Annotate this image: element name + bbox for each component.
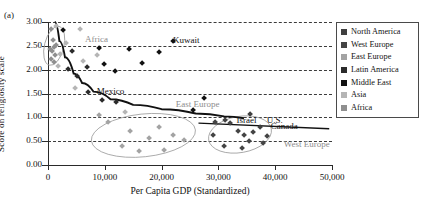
legend-swatch-icon (341, 42, 347, 48)
annotation-mexico: Mexico (97, 86, 125, 96)
annotation-kuwait: Kuwait (173, 35, 200, 45)
x-axis-title: Per Capita GDP (Standardized) (48, 186, 332, 196)
legend-label: West Europe (351, 41, 393, 49)
legend-swatch-icon (341, 80, 347, 86)
x-axis-line (48, 165, 332, 166)
x-tick (332, 165, 333, 170)
legend: North AmericaWest EuropeEast EuropeLatin… (336, 22, 419, 118)
figure-panel: (a) Score on religiosity scale 0.000.501… (0, 0, 423, 206)
y-tick-label: 0.00 (2, 159, 42, 169)
legend-item-west-europe: West Europe (341, 39, 415, 52)
legend-label: Asia (351, 91, 366, 99)
x-tick-label: 50,000 (302, 172, 362, 182)
x-tick-label: 30,000 (188, 172, 248, 182)
legend-item-north-america: North America (341, 26, 415, 39)
y-tick-label: 0.50 (2, 135, 42, 145)
annotation-easteurope: East Europe (176, 99, 220, 109)
y-tick-label: 1.00 (2, 111, 42, 121)
x-tick-label: 10,000 (75, 172, 135, 182)
annotation-westeurope: West Europe (284, 139, 330, 149)
legend-swatch-icon (341, 105, 347, 111)
legend-swatch-icon (341, 29, 347, 35)
legend-label: Latin America (351, 66, 399, 74)
annotation-israel: Israel (237, 115, 257, 125)
legend-swatch-icon (341, 92, 347, 98)
right-linear-trend (199, 123, 330, 129)
legend-swatch-icon (341, 54, 347, 60)
legend-item-middle-east: Middle East (341, 76, 415, 89)
legend-label: Africa (351, 104, 372, 112)
annotation-africa: Africa (85, 34, 108, 44)
legend-item-east-europe: East Europe (341, 51, 415, 64)
y-tick-label: 1.50 (2, 88, 42, 98)
legend-swatch-icon (341, 67, 347, 73)
legend-label: Middle East (351, 79, 391, 87)
annotation-canada: Canada (271, 121, 298, 131)
legend-label: East Europe (351, 53, 391, 61)
y-tick-label: 2.00 (2, 64, 42, 74)
legend-item-asia: Asia (341, 89, 415, 102)
y-tick-label: 3.00 (2, 16, 42, 26)
y-tick-label: 2.50 (2, 40, 42, 50)
x-tick-label: 40,000 (245, 172, 305, 182)
legend-label: North America (351, 28, 401, 36)
legend-item-latin-america: Latin America (341, 64, 415, 77)
x-tick-label: 0 (18, 172, 78, 182)
x-tick-label: 20,000 (132, 172, 192, 182)
legend-item-africa: Africa (341, 102, 415, 115)
